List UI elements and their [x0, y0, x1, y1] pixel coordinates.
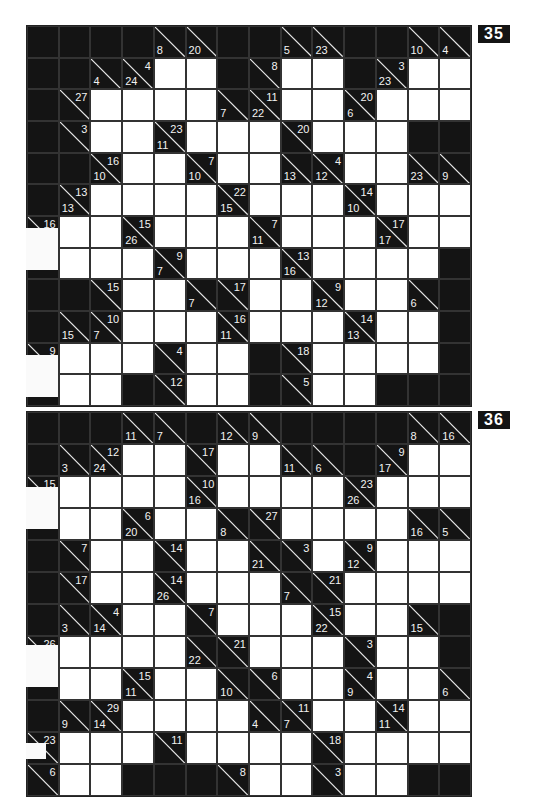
entry-cell[interactable]: [154, 153, 186, 185]
entry-cell[interactable]: [376, 572, 408, 604]
entry-cell[interactable]: [249, 636, 281, 668]
entry-cell[interactable]: [217, 216, 249, 248]
entry-cell[interactable]: [408, 184, 440, 216]
entry-cell[interactable]: [344, 248, 376, 280]
entry-cell[interactable]: [439, 184, 471, 216]
entry-cell[interactable]: [90, 540, 122, 572]
entry-cell[interactable]: [312, 248, 344, 280]
entry-cell[interactable]: [249, 764, 281, 796]
entry-cell[interactable]: [281, 668, 313, 700]
entry-cell[interactable]: [122, 184, 154, 216]
entry-cell[interactable]: [90, 668, 122, 700]
entry-cell[interactable]: [312, 540, 344, 572]
entry-cell[interactable]: [154, 89, 186, 121]
entry-cell[interactable]: [376, 248, 408, 280]
entry-cell[interactable]: [408, 636, 440, 668]
entry-cell[interactable]: [408, 732, 440, 764]
entry-cell[interactable]: [186, 540, 218, 572]
entry-cell[interactable]: [249, 121, 281, 153]
entry-cell[interactable]: [186, 508, 218, 540]
entry-cell[interactable]: [59, 343, 91, 375]
entry-cell[interactable]: [122, 248, 154, 280]
entry-cell[interactable]: [249, 279, 281, 311]
entry-cell[interactable]: [122, 343, 154, 375]
entry-cell[interactable]: [439, 540, 471, 572]
entry-cell[interactable]: [249, 311, 281, 343]
entry-cell[interactable]: [408, 572, 440, 604]
entry-cell[interactable]: [249, 444, 281, 476]
entry-cell[interactable]: [90, 343, 122, 375]
entry-cell[interactable]: [154, 636, 186, 668]
entry-cell[interactable]: [312, 374, 344, 406]
entry-cell[interactable]: [122, 121, 154, 153]
entry-cell[interactable]: [249, 604, 281, 636]
entry-cell[interactable]: [122, 700, 154, 732]
entry-cell[interactable]: [122, 153, 154, 185]
entry-cell[interactable]: [59, 508, 91, 540]
entry-cell[interactable]: [90, 508, 122, 540]
entry-cell[interactable]: [344, 153, 376, 185]
entry-cell[interactable]: [408, 476, 440, 508]
entry-cell[interactable]: [122, 444, 154, 476]
entry-cell[interactable]: [312, 58, 344, 90]
entry-cell[interactable]: [376, 184, 408, 216]
entry-cell[interactable]: [376, 604, 408, 636]
entry-cell[interactable]: [59, 216, 91, 248]
entry-cell[interactable]: [154, 58, 186, 90]
entry-cell[interactable]: [122, 572, 154, 604]
entry-cell[interactable]: [249, 732, 281, 764]
entry-cell[interactable]: [122, 636, 154, 668]
entry-cell[interactable]: [217, 604, 249, 636]
entry-cell[interactable]: [154, 508, 186, 540]
entry-cell[interactable]: [408, 540, 440, 572]
entry-cell[interactable]: [281, 311, 313, 343]
entry-cell[interactable]: [186, 668, 218, 700]
entry-cell[interactable]: [312, 343, 344, 375]
entry-cell[interactable]: [439, 216, 471, 248]
entry-cell[interactable]: [59, 764, 91, 796]
entry-cell[interactable]: [312, 121, 344, 153]
entry-cell[interactable]: [408, 89, 440, 121]
entry-cell[interactable]: [376, 311, 408, 343]
entry-cell[interactable]: [408, 311, 440, 343]
entry-cell[interactable]: [344, 572, 376, 604]
entry-cell[interactable]: [312, 311, 344, 343]
entry-cell[interactable]: [122, 476, 154, 508]
entry-cell[interactable]: [408, 668, 440, 700]
entry-cell[interactable]: [154, 668, 186, 700]
entry-cell[interactable]: [281, 216, 313, 248]
entry-cell[interactable]: [217, 248, 249, 280]
entry-cell[interactable]: [186, 216, 218, 248]
entry-cell[interactable]: [376, 508, 408, 540]
entry-cell[interactable]: [249, 248, 281, 280]
entry-cell[interactable]: [312, 636, 344, 668]
entry-cell[interactable]: [186, 248, 218, 280]
entry-cell[interactable]: [154, 184, 186, 216]
entry-cell[interactable]: [217, 444, 249, 476]
entry-cell[interactable]: [186, 58, 218, 90]
entry-cell[interactable]: [376, 540, 408, 572]
entry-cell[interactable]: [217, 540, 249, 572]
entry-cell[interactable]: [312, 184, 344, 216]
entry-cell[interactable]: [249, 572, 281, 604]
entry-cell[interactable]: [90, 476, 122, 508]
entry-cell[interactable]: [281, 279, 313, 311]
entry-cell[interactable]: [312, 508, 344, 540]
entry-cell[interactable]: [376, 121, 408, 153]
entry-cell[interactable]: [439, 444, 471, 476]
entry-cell[interactable]: [217, 572, 249, 604]
entry-cell[interactable]: [376, 89, 408, 121]
entry-cell[interactable]: [59, 636, 91, 668]
entry-cell[interactable]: [90, 732, 122, 764]
entry-cell[interactable]: [376, 732, 408, 764]
entry-cell[interactable]: [59, 732, 91, 764]
entry-cell[interactable]: [59, 476, 91, 508]
entry-cell[interactable]: [154, 311, 186, 343]
entry-cell[interactable]: [344, 700, 376, 732]
entry-cell[interactable]: [439, 58, 471, 90]
entry-cell[interactable]: [90, 184, 122, 216]
entry-cell[interactable]: [122, 279, 154, 311]
entry-cell[interactable]: [186, 121, 218, 153]
entry-cell[interactable]: [217, 700, 249, 732]
entry-cell[interactable]: [186, 700, 218, 732]
